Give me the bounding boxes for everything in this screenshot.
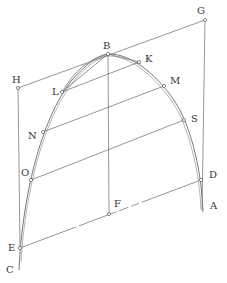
label-B: B bbox=[103, 40, 110, 51]
point-H bbox=[16, 86, 19, 89]
label-H: H bbox=[12, 74, 21, 85]
chord-BL bbox=[62, 54, 108, 92]
point-M bbox=[162, 84, 165, 87]
point-K bbox=[137, 60, 140, 63]
label-C: C bbox=[6, 264, 14, 275]
point-F bbox=[107, 212, 110, 215]
label-A: A bbox=[209, 200, 218, 211]
point-O bbox=[29, 178, 32, 181]
label-M: M bbox=[170, 75, 180, 86]
label-S: S bbox=[191, 113, 198, 124]
label-N: N bbox=[28, 130, 37, 141]
parabola-curve-inner bbox=[21, 56, 201, 262]
point-G bbox=[203, 18, 206, 21]
point-L bbox=[60, 90, 63, 93]
chord-LK bbox=[62, 62, 139, 92]
point-markers bbox=[16, 18, 206, 249]
diameter-BF bbox=[108, 54, 109, 214]
point-labels: A B C D E F G H K L M N O S bbox=[6, 5, 218, 275]
label-L: L bbox=[52, 86, 59, 97]
label-K: K bbox=[145, 53, 153, 64]
geometric-diagram: A B C D E F G H K L M N O S bbox=[0, 0, 227, 283]
point-E bbox=[18, 246, 21, 249]
label-F: F bbox=[114, 198, 121, 209]
chord-BK bbox=[108, 54, 139, 62]
point-B bbox=[106, 52, 109, 55]
line-GD bbox=[202, 20, 205, 210]
point-D bbox=[199, 178, 202, 181]
point-N bbox=[41, 130, 44, 133]
label-E: E bbox=[8, 242, 15, 253]
label-D: D bbox=[209, 169, 217, 180]
line-HE bbox=[18, 88, 20, 248]
point-S bbox=[182, 118, 185, 121]
label-O: O bbox=[21, 167, 29, 178]
chord-OS bbox=[31, 120, 184, 180]
label-G: G bbox=[197, 5, 205, 16]
